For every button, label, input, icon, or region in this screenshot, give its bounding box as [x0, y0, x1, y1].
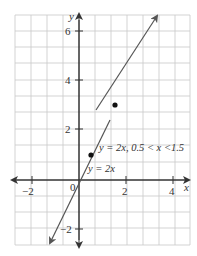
grid	[15, 15, 190, 245]
x-tick-label: 2	[122, 185, 128, 197]
x-tick-label: 4	[169, 185, 175, 197]
origin-label: 0	[70, 181, 76, 193]
series-line-y-2x-lower	[50, 120, 110, 243]
annotation-segment: y = 2x, 0.5 < x <1.5	[98, 142, 184, 153]
y-tick-label: 6	[65, 25, 71, 37]
x-tick-label: −2	[22, 185, 34, 197]
data-point-1.5-3	[112, 102, 117, 107]
x-axis-label: x	[183, 181, 189, 193]
data-point-0.5-1	[88, 152, 93, 157]
y-tick-label: −2	[60, 223, 72, 235]
y-tick-label: 4	[65, 74, 71, 86]
y-tick-label: 2	[65, 123, 71, 135]
y-axis-label: y	[68, 10, 74, 22]
annotation-line: y = 2x	[87, 163, 115, 174]
line-chart: −2 2 4 6 4 2 −2 0 x y y = 2x, 0.5 < x <1…	[0, 0, 197, 256]
